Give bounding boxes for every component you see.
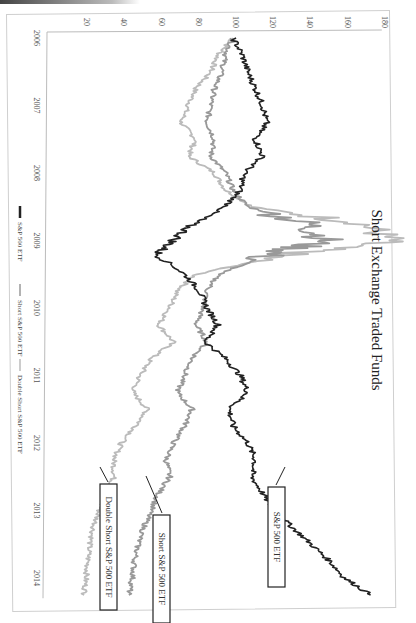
series-line-double-short-s-p-500-etf [82,38,404,595]
value-tick-label: 60 [157,18,166,26]
series-lines [82,38,404,595]
time-tick-label: 2011 [32,368,41,384]
value-tick-label: 20 [82,18,91,26]
legend-label: Short S&P 500 ETF [16,300,24,356]
series-line-s-p-500-etf [155,38,370,595]
chart-canvas: 2040608010012014016018020062007200820092… [0,0,416,623]
value-axis-line [47,30,382,32]
value-tick-label: 120 [268,16,277,28]
time-tick-label: 2007 [32,98,41,114]
time-tick-label: 2009 [32,233,41,249]
legend-label: S&P 500 ETF [16,222,24,262]
annotation-label: Double Short S&P 500 ETF [104,496,114,597]
annotation-leader-line [100,467,108,482]
value-tick-label: 40 [119,18,128,26]
time-tick-label: 2008 [32,165,41,181]
time-tick-label: 2012 [32,435,41,451]
value-tick-label: 160 [343,16,352,28]
time-tick-label: 2010 [32,300,41,316]
annotations: S&P 500 ETFShort S&P 500 ETFDouble Short… [100,467,285,623]
annotation-label: S&P 500 ETF [272,512,282,563]
value-tick-label: 180 [380,16,389,28]
time-axis-line [43,32,47,598]
annotation-label: Short S&P 500 ETF [157,533,167,605]
legend: S&P 500 ETFShort S&P 500 ETFDouble Short… [16,206,24,454]
value-tick-label: 140 [305,16,314,28]
time-tick-label: 2006 [32,30,41,46]
annotation-leader-line [276,467,285,485]
value-tick-label: 80 [194,18,203,26]
legend-label: Double Short S&P 500 ETF [16,375,24,454]
time-tick-label: 2014 [32,570,41,586]
chart-title: Short Exchange Traded Funds [369,209,385,390]
time-tick-label: 2013 [32,503,41,519]
value-tick-label: 100 [231,16,240,28]
series-line-short-s-p-500-etf [127,38,343,595]
